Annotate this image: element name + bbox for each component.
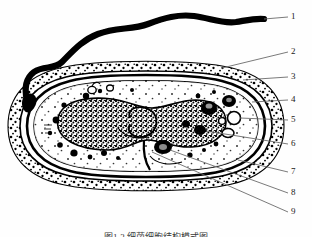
label-2: 2 (291, 47, 296, 56)
label-6: 6 (291, 139, 296, 148)
label-4: 4 (291, 95, 296, 104)
bacterial-cell-diagram (0, 0, 312, 237)
label-7: 7 (291, 167, 296, 176)
figure-caption: 图1-3 细菌细胞结构模式图 (0, 230, 312, 237)
label-8: 8 (291, 188, 296, 197)
label-1: 1 (291, 12, 296, 21)
label-9: 9 (291, 207, 296, 216)
label-5: 5 (291, 115, 296, 124)
label-3: 3 (291, 72, 296, 81)
figure-root: 1 2 3 4 5 6 7 8 9 图1-3 细菌细胞结构模式图 (0, 0, 312, 237)
